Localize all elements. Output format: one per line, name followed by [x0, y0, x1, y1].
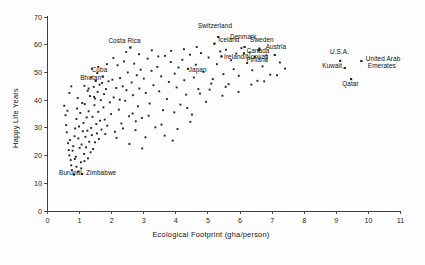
- x-axis-title: Ecological Footprint (gha/person): [152, 230, 269, 239]
- y-tick-label: 70: [34, 13, 42, 22]
- data-point: [74, 128, 76, 130]
- data-point: [137, 105, 139, 107]
- data-point: [230, 59, 232, 61]
- data-point: [88, 141, 90, 143]
- data-point: [209, 89, 211, 91]
- data-point: [147, 58, 149, 60]
- data-point: [185, 94, 187, 96]
- data-point: [96, 133, 98, 135]
- data-point: [189, 121, 191, 123]
- data-point: [118, 109, 120, 111]
- data-point-label: Emerates: [368, 62, 396, 69]
- data-point: [124, 100, 126, 102]
- data-point: [84, 85, 86, 87]
- x-tick-label: 7: [270, 216, 274, 225]
- data-point: [79, 112, 81, 114]
- x-tick-label: 11: [397, 216, 404, 225]
- data-point: [162, 109, 164, 111]
- data-point: [262, 65, 264, 67]
- data-point: [70, 164, 72, 166]
- data-point: [65, 124, 67, 126]
- data-point: [115, 87, 117, 89]
- data-point: [120, 123, 122, 125]
- data-point: [84, 103, 86, 105]
- data-point: [193, 77, 195, 79]
- data-point: [93, 86, 95, 88]
- data-point: [225, 86, 227, 88]
- data-point-label: Switzerland: [198, 22, 232, 29]
- data-point: [97, 111, 99, 113]
- data-point: [131, 82, 133, 84]
- data-point: [128, 143, 130, 145]
- data-point: [181, 59, 183, 61]
- data-point: [269, 74, 271, 76]
- y-tick-label: 20: [34, 151, 42, 160]
- data-point: [93, 96, 95, 98]
- x-tick-label: 1: [78, 216, 82, 225]
- data-point: [74, 135, 76, 137]
- data-point: [153, 84, 155, 86]
- data-point: [136, 74, 138, 76]
- data-point: [189, 54, 191, 56]
- data-point: [222, 73, 224, 75]
- data-point: [69, 139, 71, 141]
- data-point: [138, 88, 140, 90]
- data-point-label: Kuwait: [322, 62, 342, 69]
- data-point: [143, 78, 145, 80]
- data-point: [251, 69, 253, 71]
- data-point-label: Burundi: [59, 169, 82, 176]
- data-point: [78, 126, 80, 128]
- data-point: [183, 48, 185, 50]
- data-point: [102, 106, 104, 108]
- data-point-label: Ireland/Norway: [224, 53, 269, 61]
- data-point: [170, 50, 172, 52]
- data-point-label: Japan: [189, 66, 207, 74]
- data-point: [151, 70, 153, 72]
- data-point: [196, 46, 198, 48]
- data-point: [70, 85, 72, 87]
- data-point: [221, 95, 223, 97]
- data-point: [119, 77, 121, 79]
- y-tick-label: 50: [34, 68, 42, 77]
- data-point-label: Qatar: [342, 80, 359, 88]
- highlighted-data-point: [213, 43, 215, 45]
- data-point: [176, 86, 178, 88]
- data-point: [65, 114, 67, 116]
- data-point: [101, 129, 103, 131]
- data-point: [89, 95, 91, 97]
- highlighted-data-point: [221, 55, 223, 57]
- data-point: [114, 131, 116, 133]
- data-point: [91, 134, 93, 136]
- data-point: [116, 137, 118, 139]
- x-tick-label: 6: [238, 216, 242, 225]
- data-point: [84, 136, 86, 138]
- x-tick-label: 3: [142, 216, 146, 225]
- data-point: [119, 99, 121, 101]
- data-point: [110, 113, 112, 115]
- data-point: [197, 88, 199, 90]
- data-point: [127, 72, 129, 74]
- data-point: [88, 110, 90, 112]
- data-point: [105, 88, 107, 90]
- data-point: [81, 102, 83, 104]
- x-tick-label: 4: [174, 216, 178, 225]
- data-point: [164, 135, 166, 137]
- data-point: [212, 78, 214, 80]
- data-point: [67, 142, 69, 144]
- data-point: [170, 61, 172, 63]
- y-tick-label: 0: [38, 207, 42, 216]
- data-point: [157, 55, 159, 57]
- data-point: [149, 103, 151, 105]
- highlighted-data-point: [344, 67, 346, 69]
- data-point: [138, 53, 140, 55]
- y-tick-label: 30: [34, 123, 42, 132]
- data-point: [88, 88, 90, 90]
- data-point: [210, 83, 212, 85]
- data-point-label: Costa Rica: [108, 37, 141, 44]
- data-point: [75, 166, 77, 168]
- data-point: [140, 69, 142, 71]
- data-point: [177, 128, 179, 130]
- data-point: [66, 131, 68, 133]
- data-point: [68, 149, 70, 151]
- data-point: [72, 150, 74, 152]
